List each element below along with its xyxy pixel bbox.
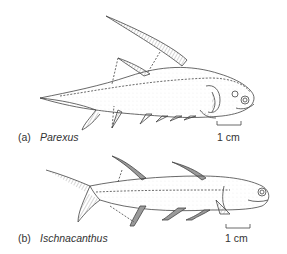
panel-a-tag: (a) [18, 131, 40, 143]
panel-a-caption: (a)Parexus [18, 131, 79, 143]
scale-bar-b [226, 224, 250, 228]
ischnacanthus-drawing [46, 156, 269, 226]
panel-b-caption: (b)Ischnacanthus [18, 232, 108, 244]
fish-illustrations [0, 0, 287, 254]
panel-b-tag: (b) [18, 232, 40, 244]
panel-a-species-name: Parexus [40, 131, 79, 143]
panel-b-species-name: Ischnacanthus [40, 232, 108, 244]
parexus-drawing [40, 16, 254, 130]
panel-b-scale-label: 1 cm [225, 232, 248, 244]
scale-bar-a [217, 121, 241, 125]
panel-a-scale-label: 1 cm [217, 131, 240, 143]
